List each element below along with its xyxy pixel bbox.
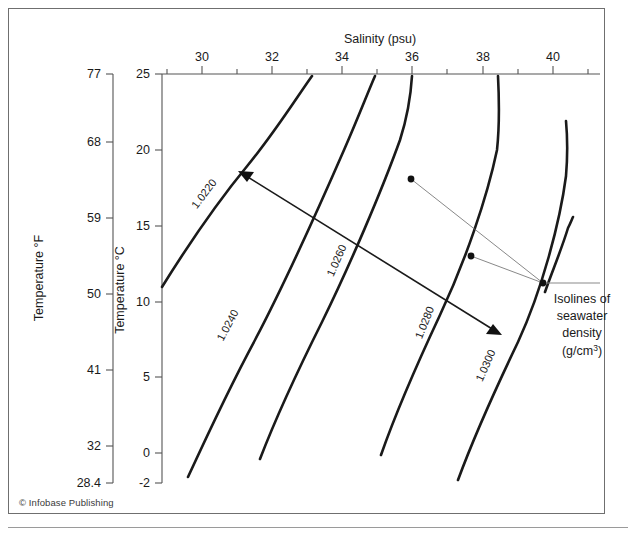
salinity-ticklabel-30: 30 [195,50,209,64]
isoline-label-1.0240: 1.0240 [214,307,240,342]
fahrenheit-ticklabel-28.4: 28.4 [77,476,101,490]
isoline-1.0280 [381,76,499,455]
callout-units-pre: (g/cm [562,344,593,358]
salinity-ticklabel-32: 32 [265,50,279,64]
callout-dot-1.0260 [408,176,415,183]
callout-units-post: ) [598,344,602,358]
density-callout-text: Isolines of seawater density (g/cm3) [554,292,611,358]
isoline-label-1.0220: 1.0220 [189,177,219,211]
density-gradient-arrowhead-right [486,324,502,335]
salinity-ticklabel-40: 40 [546,50,560,64]
isoline-label-1.0280: 1.0280 [412,305,436,341]
callout-line-2: seawater [557,309,608,323]
ts-diagram-svg: 77 68 59 50 41 32 28.4 Temperature °F 25… [0,0,635,558]
celsius-ticklabel-5: 5 [143,370,150,384]
callout-dot-1.0280 [468,253,475,260]
leader-line-top [411,179,543,283]
density-gradient-arrowhead-left [238,171,254,182]
callout-line-4: (g/cm3) [562,343,602,358]
fahrenheit-axis: 77 68 59 50 41 32 28.4 Temperature °F [32,67,113,490]
celsius-ticklabel-25: 25 [136,67,150,81]
salinity-axis: 30 32 34 36 38 40 Salinity (psu) [162,32,600,74]
isoline-group: 1.0220 1.0240 1.0260 1.0280 1.0300 [162,76,573,480]
density-gradient-arrow [238,171,502,335]
callout-leaders [408,176,600,287]
fahrenheit-ticklabel-32: 32 [87,439,101,453]
salinity-ticklabel-38: 38 [476,50,490,64]
figure-root: 77 68 59 50 41 32 28.4 Temperature °F 25… [0,0,635,558]
salinity-ticklabel-36: 36 [405,50,419,64]
isoline-label-1.0300: 1.0300 [473,348,498,384]
density-gradient-arrow-shaft [243,174,497,332]
salinity-axis-title: Salinity (psu) [344,32,416,46]
isoline-1.0220 [162,76,312,287]
callout-line-3: density [562,326,602,340]
celsius-ticklabel-15: 15 [136,219,150,233]
celsius-ticklabel-20: 20 [136,143,150,157]
isoline-1.0240 [188,76,375,477]
fahrenheit-ticklabel-68: 68 [87,135,101,149]
isoline-1.0300 [458,121,567,480]
leader-line-middle [471,256,543,283]
fahrenheit-ticklabel-41: 41 [87,363,101,377]
fahrenheit-ticklabel-50: 50 [87,287,101,301]
salinity-ticklabel-34: 34 [335,50,349,64]
celsius-ticklabel--2: -2 [139,476,150,490]
celsius-axis: 25 20 15 10 5 0 -2 Temperature °C [113,67,162,490]
fahrenheit-ticklabel-59: 59 [87,211,101,225]
celsius-ticklabel-10: 10 [136,295,150,309]
fahrenheit-ticklabel-77: 77 [87,67,101,81]
fahrenheit-axis-title: Temperature °F [32,234,46,321]
publisher-credit: © Infobase Publishing [19,497,114,508]
callout-line-1: Isolines of [554,292,611,306]
celsius-axis-title: Temperature °C [113,246,127,334]
celsius-ticklabel-0: 0 [143,446,150,460]
callout-dot-1.0300 [540,280,547,287]
